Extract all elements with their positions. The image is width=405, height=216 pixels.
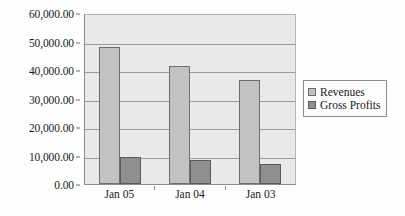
legend-swatch-icon (308, 88, 316, 96)
y-tick-label: 30,000.00 (29, 94, 74, 106)
y-tick-label: 40,000.00 (29, 65, 74, 77)
legend-item-revenues: Revenues (308, 86, 380, 98)
bar-group-jan-04 (169, 15, 211, 184)
y-axis: 60,000.00 50,000.00 40,000.00 30,000.00 … (0, 0, 80, 216)
plot-area (84, 14, 296, 185)
y-tick-mark (76, 71, 80, 72)
bar-gross-profits-jan-03 (260, 164, 281, 184)
y-tick-mark (76, 14, 80, 15)
x-tick-label-jan-03: Jan 03 (246, 188, 276, 200)
y-tick-label: 60,000.00 (29, 8, 74, 20)
bar-gross-profits-jan-04 (190, 160, 211, 184)
x-tick-label-jan-04: Jan 04 (175, 188, 205, 200)
bars-layer (85, 15, 295, 184)
bar-revenues-jan-03 (239, 80, 260, 184)
y-tick-mark (76, 156, 80, 157)
x-tick-label-jan-05: Jan 05 (104, 188, 134, 200)
legend-item-gross-profits: Gross Profits (308, 99, 380, 111)
y-tick-mark (76, 128, 80, 129)
x-axis: Jan 05 Jan 04 Jan 03 (84, 188, 296, 200)
legend-swatch-icon (308, 101, 316, 109)
y-tick-mark (76, 99, 80, 100)
legend-label-gross-profits: Gross Profits (320, 99, 380, 111)
y-tick-label: 0.00 (54, 179, 74, 191)
bar-chart: 60,000.00 50,000.00 40,000.00 30,000.00 … (0, 0, 405, 216)
y-tick-label: 10,000.00 (29, 151, 74, 163)
y-tick-label: 50,000.00 (29, 37, 74, 49)
bar-group-jan-05 (99, 15, 141, 184)
y-tick-mark (76, 185, 80, 186)
legend-label-revenues: Revenues (320, 86, 365, 98)
y-tick-mark (76, 42, 80, 43)
bar-gross-profits-jan-05 (120, 157, 141, 184)
bar-revenues-jan-04 (169, 66, 190, 184)
y-tick-label: 20,000.00 (29, 122, 74, 134)
chart-legend: Revenues Gross Profits (303, 80, 387, 117)
bar-revenues-jan-05 (99, 47, 120, 184)
bar-group-jan-03 (239, 15, 281, 184)
